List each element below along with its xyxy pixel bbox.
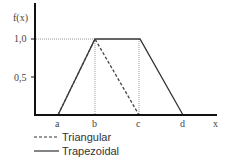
- legend-label-trapezoidal: Trapezoidal: [62, 145, 119, 157]
- y-axis-label: f(x): [13, 12, 28, 24]
- x-tick-label-b: b: [92, 118, 97, 129]
- legend-label-triangular: Triangular: [62, 131, 111, 143]
- triangular-series: [58, 39, 139, 115]
- membership-function-chart: f(x) 1,0 0,5 a b c d x Triangular Trapez…: [0, 0, 230, 168]
- x-tick-label-d: d: [180, 118, 185, 129]
- y-tick-label-05: 0,5: [14, 72, 27, 83]
- legend: Triangular Trapezoidal: [34, 131, 119, 157]
- x-tick-label-c: c: [136, 118, 141, 129]
- y-tick-label-1: 1,0: [14, 33, 27, 44]
- x-tick-label-a: a: [55, 118, 60, 129]
- x-axis-label: x: [213, 118, 218, 129]
